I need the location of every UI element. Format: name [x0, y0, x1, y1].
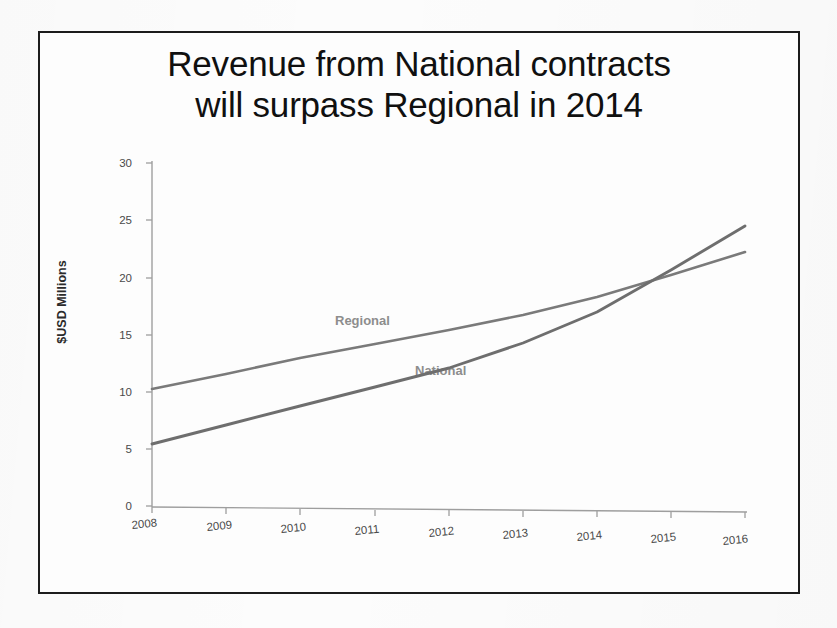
y-tick-label-15: 15 [100, 329, 132, 341]
y-tick-label-20: 20 [100, 272, 132, 284]
series-label-regional: Regional [335, 313, 390, 328]
series-label-national: National [415, 363, 466, 378]
x-tick-label-2012: 2012 [428, 525, 455, 539]
y-tick-label-10: 10 [100, 386, 132, 398]
x-tick-label-2014: 2014 [576, 529, 603, 543]
x-tick-label-2008: 2008 [131, 517, 158, 531]
y-tick-label-0: 0 [100, 500, 132, 512]
x-tick-label-2016: 2016 [722, 533, 749, 547]
y-tick-label-5: 5 [100, 443, 132, 455]
y-tick-label-25: 25 [100, 214, 132, 226]
x-tick-label-2010: 2010 [280, 521, 307, 535]
y-tick-label-30: 30 [100, 157, 132, 169]
x-tick-label-2013: 2013 [502, 527, 529, 541]
slide-screenshot: Revenue from National contracts will sur… [0, 0, 837, 628]
x-tick-label-2011: 2011 [354, 523, 380, 537]
page-title: Revenue from National contracts will sur… [38, 44, 800, 126]
x-tick-label-2015: 2015 [650, 531, 677, 545]
y-axis-title: $USD Millions [55, 260, 69, 343]
x-tick-label-2009: 2009 [206, 519, 233, 533]
